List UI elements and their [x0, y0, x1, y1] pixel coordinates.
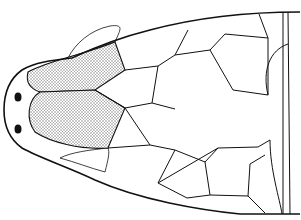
scale-line [205, 162, 210, 195]
scale-line [233, 90, 268, 95]
scale-line [210, 50, 233, 90]
scale-line [218, 147, 258, 148]
nostril-icon [15, 93, 22, 102]
scale-line [152, 103, 175, 109]
nostrils [15, 93, 22, 134]
scale-boundaries [95, 12, 290, 214]
scale-line [225, 34, 268, 38]
scale-line [125, 108, 150, 145]
scale-line [108, 145, 150, 148]
scale-line [210, 195, 248, 196]
scale-line [175, 50, 210, 55]
scale-line [158, 183, 187, 198]
scale-line [210, 34, 225, 50]
scale-line [248, 196, 265, 213]
scale-line [175, 150, 205, 162]
scale-line [288, 12, 290, 214]
scale-line [259, 14, 268, 38]
scale-line [152, 66, 158, 103]
scale-line [266, 44, 288, 95]
nostril-icon [15, 125, 22, 134]
shaded-scale [29, 90, 125, 148]
prefrontal-scales [27, 42, 125, 148]
scale-line [187, 195, 210, 198]
scale-line [125, 55, 175, 70]
scale-line [175, 30, 188, 55]
scale-line [270, 140, 282, 214]
scale-line [248, 164, 250, 196]
reptile-head-diagram [0, 0, 301, 220]
scale-line [125, 103, 152, 108]
scale-line [250, 155, 265, 164]
scale-drawing [0, 0, 301, 220]
scale-line [150, 145, 175, 150]
scale-line [258, 140, 270, 147]
